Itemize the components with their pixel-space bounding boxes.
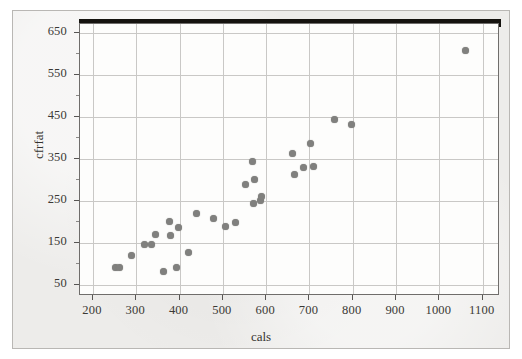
x-tick-mark <box>395 295 396 300</box>
scatter-point <box>160 268 167 275</box>
scatter-point <box>462 47 469 54</box>
scatter-point <box>175 224 182 231</box>
x-tick-mark <box>265 295 266 300</box>
x-tick-label: 1100 <box>457 303 507 318</box>
gridline-horizontal <box>80 117 498 118</box>
y-tick-mark <box>74 242 79 243</box>
x-tick-mark <box>135 295 136 300</box>
scatter-point <box>166 218 173 225</box>
y-tick-mark <box>74 158 79 159</box>
y-tick-mark-minor <box>76 179 79 180</box>
x-tick-mark <box>482 295 483 300</box>
gridline-horizontal <box>80 285 498 286</box>
scatter-plot-figure: 20030040050060070080090010001100 5015025… <box>12 10 510 349</box>
y-tick-mark <box>74 32 79 33</box>
x-tick-mark <box>179 295 180 300</box>
gridline-horizontal <box>80 159 498 160</box>
y-tick-mark-minor <box>76 221 79 222</box>
x-tick-mark <box>222 295 223 300</box>
gridline-horizontal <box>80 33 498 34</box>
scatter-point <box>173 264 180 271</box>
y-tick-mark <box>74 74 79 75</box>
scatter-point <box>167 232 174 239</box>
scatter-point <box>152 231 159 238</box>
scatter-point <box>331 116 338 123</box>
scatter-point <box>232 219 239 226</box>
plot-area <box>79 23 499 295</box>
x-tick-mark <box>308 295 309 300</box>
scatter-point <box>249 158 256 165</box>
scatter-point <box>116 264 123 271</box>
y-tick-mark-minor <box>76 95 79 96</box>
y-tick-label: 150 <box>27 234 67 249</box>
scatter-point <box>242 181 249 188</box>
x-axis-title: cals <box>13 329 509 345</box>
scatter-point <box>307 140 314 147</box>
y-axis-title: cfrfat <box>31 131 47 159</box>
x-tick-mark <box>352 295 353 300</box>
scatter-point <box>291 171 298 178</box>
y-tick-label: 250 <box>27 192 67 207</box>
y-tick-label: 50 <box>27 276 67 291</box>
scatter-point <box>258 193 265 200</box>
x-tick-mark <box>438 295 439 300</box>
scatter-point <box>148 241 155 248</box>
y-tick-label: 650 <box>27 24 67 39</box>
scatter-point <box>193 210 200 217</box>
scatter-point <box>300 164 307 171</box>
gridline-horizontal <box>80 75 498 76</box>
scatter-point <box>251 176 258 183</box>
scatter-point <box>128 252 135 259</box>
y-tick-label: 450 <box>27 108 67 123</box>
scatter-point <box>310 163 317 170</box>
gridline-horizontal <box>80 201 498 202</box>
scatter-point <box>210 215 217 222</box>
scatter-point <box>250 200 257 207</box>
scatter-point <box>222 223 229 230</box>
y-tick-mark-minor <box>76 263 79 264</box>
scatter-point <box>348 121 355 128</box>
scatter-point <box>289 150 296 157</box>
y-tick-mark-minor <box>76 137 79 138</box>
y-tick-label: 550 <box>27 66 67 81</box>
scatter-point <box>141 241 148 248</box>
y-tick-mark <box>74 116 79 117</box>
x-tick-mark <box>92 295 93 300</box>
y-tick-mark <box>74 200 79 201</box>
y-tick-mark <box>74 284 79 285</box>
scatter-point <box>185 249 192 256</box>
y-tick-mark-minor <box>76 53 79 54</box>
